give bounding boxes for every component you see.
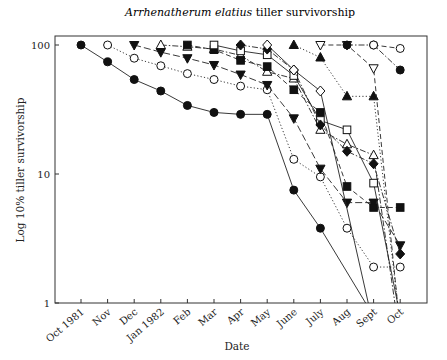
circle-open-marker <box>157 62 165 70</box>
y-tick-label: 100 <box>31 40 50 51</box>
diamond-filled-marker <box>396 249 405 259</box>
x-tick-label: Mar <box>196 306 219 328</box>
series-9 <box>316 42 398 304</box>
circle-open-marker <box>370 263 378 271</box>
triangle-up-open-marker <box>156 40 165 49</box>
triangle-up-filled-marker <box>316 53 325 62</box>
x-tick-label: Oct 1981 <box>44 306 87 344</box>
circle-open-marker <box>290 155 298 163</box>
circle-open-marker <box>396 44 404 52</box>
triangle-up-filled-marker <box>342 91 351 100</box>
triangle-down-filled-marker <box>342 199 351 208</box>
circle-filled-marker <box>396 66 404 74</box>
square-filled-marker <box>263 63 271 71</box>
triangle-up-filled-marker <box>289 40 298 49</box>
triangle-up-open-marker <box>369 150 378 159</box>
x-tick-label: Aug <box>329 306 353 328</box>
series-5 <box>210 41 397 303</box>
circle-filled-marker <box>157 87 165 95</box>
x-tick-label: Nov <box>90 306 113 328</box>
circle-filled-marker <box>343 41 351 49</box>
square-filled-marker <box>396 204 404 212</box>
square-open-marker <box>370 179 378 187</box>
series-1 <box>104 41 405 271</box>
circle-open-marker <box>343 224 351 232</box>
diamond-filled-marker <box>369 159 378 169</box>
circle-filled-marker <box>263 110 271 118</box>
series-line <box>241 45 401 254</box>
square-filled-marker <box>290 86 298 94</box>
square-open-marker <box>343 126 351 134</box>
survivorship-chart: Arrhenatherum elatius tiller survivorshi… <box>0 0 447 360</box>
triangle-down-filled-marker <box>289 115 298 124</box>
triangle-down-open-marker <box>369 65 378 74</box>
x-tick-label: July <box>303 306 326 328</box>
x-tick-label: Feb <box>171 306 192 326</box>
x-tick-label: Apr <box>224 306 246 327</box>
x-tick-label: Sept <box>354 306 379 329</box>
circle-open-marker <box>370 41 378 49</box>
circle-filled-marker <box>237 110 245 118</box>
square-filled-marker <box>370 204 378 212</box>
circle-filled-marker <box>210 108 218 116</box>
square-filled-marker <box>343 183 351 191</box>
triangle-down-filled-marker <box>183 55 192 64</box>
circle-filled-marker <box>290 186 298 194</box>
x-tick-label: May <box>249 306 273 329</box>
circle-filled-marker <box>77 41 85 49</box>
square-open-marker <box>210 41 218 49</box>
series-7 <box>263 40 369 303</box>
series-line <box>320 45 397 303</box>
y-axis-label: Log 10% tiller survivorship <box>14 97 26 242</box>
circle-filled-marker <box>183 101 191 109</box>
series-11 <box>370 41 405 52</box>
y-tick-label: 10 <box>37 169 50 180</box>
series-0 <box>77 41 366 303</box>
square-filled-marker <box>184 41 192 49</box>
circle-open-marker <box>104 41 112 49</box>
circle-filled-marker <box>316 224 324 232</box>
triangle-down-open-marker <box>316 42 325 51</box>
circle-open-marker <box>130 54 138 62</box>
circle-open-marker <box>237 82 245 90</box>
circle-open-marker <box>396 263 404 271</box>
chart-title: Arrhenatherum elatius tiller survivorshi… <box>124 6 355 19</box>
circle-open-marker <box>210 76 218 84</box>
x-axis: Oct 1981NovDecJan 1982FebMarAprMayJuneJu… <box>44 299 406 344</box>
x-axis-label: Date <box>224 340 249 352</box>
x-tick-label: Oct <box>385 306 406 326</box>
circle-open-marker <box>183 70 191 78</box>
series-group <box>77 40 405 303</box>
triangle-down-filled-marker <box>236 71 245 80</box>
diamond-open-marker <box>316 86 325 96</box>
series-line <box>294 45 398 303</box>
square-filled-marker <box>237 57 245 65</box>
x-tick-label: June <box>274 306 299 330</box>
circle-filled-marker <box>130 76 138 84</box>
circle-filled-marker <box>104 58 112 66</box>
y-tick-label: 1 <box>44 298 50 309</box>
